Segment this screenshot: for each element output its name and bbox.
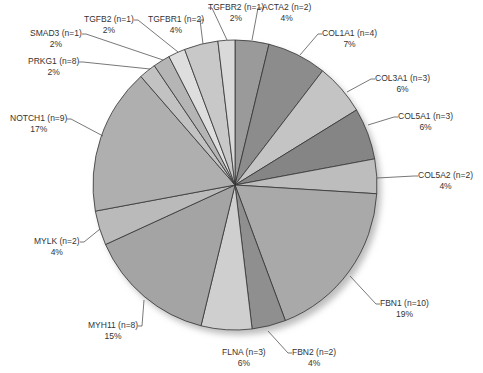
label-percent: 4% (148, 25, 204, 36)
label-name: COL5A1 (n=3) (398, 111, 453, 122)
label-col5a1: COL5A1 (n=3)6% (398, 111, 453, 133)
label-name: FBN1 (n=10) (380, 298, 429, 309)
label-fbn2: FBN2 (n=2)4% (292, 347, 336, 369)
label-percent: 4% (34, 247, 80, 258)
label-fbn1: FBN1 (n=10)19% (380, 298, 429, 320)
leader-line-fbn2 (268, 331, 292, 353)
label-col5a2: COL5A2 (n=2)4% (418, 170, 473, 192)
label-prkg1: PRKG1 (n=8)2% (28, 56, 79, 78)
label-percent: 6% (375, 84, 430, 95)
label-name: NOTCH1 (n=9) (10, 113, 67, 124)
label-percent: 2% (84, 25, 134, 36)
leader-line-notch1 (67, 119, 103, 136)
leader-line-col1a1 (300, 34, 322, 55)
leader-line-col5a1 (368, 117, 398, 125)
label-col1a1: COL1A1 (n=4)7% (322, 28, 377, 50)
label-name: TGFBR1 (n=2) (148, 14, 204, 25)
label-acta2: ACTA2 (n=2)4% (262, 2, 311, 24)
label-notch1: NOTCH1 (n=9)17% (10, 113, 67, 135)
pie-slices (93, 40, 377, 330)
label-name: MYLK (n=2) (34, 236, 80, 247)
label-name: FLNA (n=3) (222, 347, 266, 358)
label-col3a1: COL3A1 (n=3)6% (375, 73, 430, 95)
label-name: COL5A2 (n=2) (418, 170, 473, 181)
label-tgfbr2: TGFBR2 (n=1)2% (208, 2, 264, 24)
label-name: PRKG1 (n=8) (28, 56, 79, 67)
leader-line-fbn1 (350, 276, 380, 304)
label-mylk: MYLK (n=2)4% (34, 236, 80, 258)
leader-line-smad3 (82, 34, 163, 60)
label-percent: 4% (418, 181, 473, 192)
label-percent: 6% (398, 122, 453, 133)
label-name: SMAD3 (n=1) (30, 28, 82, 39)
label-percent: 2% (30, 39, 82, 50)
label-percent: 4% (262, 13, 311, 24)
label-percent: 15% (88, 331, 138, 342)
label-percent: 2% (208, 13, 264, 24)
label-name: COL3A1 (n=3) (375, 73, 430, 84)
label-percent: 19% (380, 309, 429, 320)
label-name: TGFBR2 (n=1) (208, 2, 264, 13)
label-tgfbr1: TGFBR1 (n=2)4% (148, 14, 204, 36)
leader-line-col3a1 (347, 79, 375, 92)
label-myh11: MYH11 (n=8)15% (88, 320, 138, 342)
label-smad3: SMAD3 (n=1)2% (30, 28, 82, 50)
label-percent: 2% (28, 67, 79, 78)
leader-line-mylk (80, 229, 100, 242)
leader-line-myh11 (138, 300, 144, 326)
label-percent: 4% (292, 358, 336, 369)
label-name: MYH11 (n=8) (88, 320, 138, 331)
label-percent: 17% (10, 124, 67, 135)
leader-line-col5a2 (377, 176, 418, 178)
label-percent: 7% (322, 39, 377, 50)
label-name: FBN2 (n=2) (292, 347, 336, 358)
label-name: ACTA2 (n=2) (262, 2, 311, 13)
label-percent: 6% (222, 358, 266, 369)
label-flna: FLNA (n=3)6% (222, 347, 266, 369)
label-name: TGFB2 (n=1) (84, 14, 134, 25)
leader-line-prkg1 (79, 62, 150, 69)
label-tgfb2: TGFB2 (n=1)2% (84, 14, 134, 36)
label-name: COL1A1 (n=4) (322, 28, 377, 39)
